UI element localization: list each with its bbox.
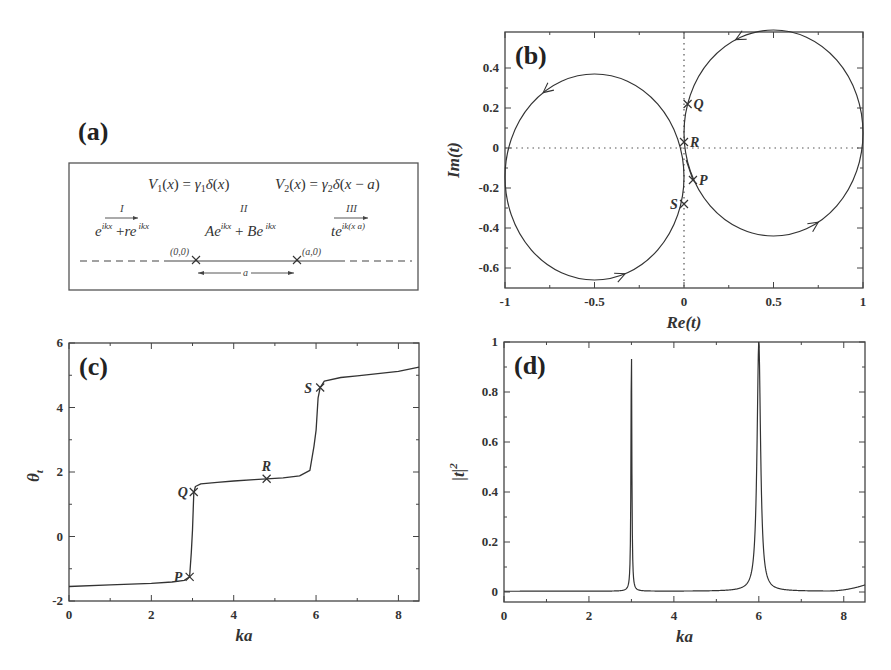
delta-marker-1-icon	[192, 256, 200, 264]
region-II-wavefunction: Aeikx + Be ikx	[204, 221, 276, 239]
point-label-r: R	[689, 135, 699, 150]
y-tick-label: 0	[493, 140, 500, 155]
circle-trajectory	[684, 30, 863, 236]
potential-1-equation: V1(x) = γ1δ(x)	[148, 176, 229, 194]
point-label-q: Q	[694, 97, 704, 112]
y-tick-label: 2	[57, 464, 64, 479]
x-tick-label: 1	[860, 294, 867, 309]
panel-a-schematic: (a) V1(x) = γ1δ(x) V2(x) = γ2δ(x − a) I …	[69, 117, 418, 290]
panel-label: (c)	[79, 352, 108, 381]
arrowhead-icon	[133, 216, 138, 220]
y-tick-label: -0.2	[478, 180, 499, 195]
arrowhead-right-icon	[288, 271, 294, 275]
phase-curve	[69, 367, 419, 586]
x-axis-title: ka	[236, 626, 254, 645]
transmission-curve	[504, 342, 865, 591]
y-axis-title: θt	[24, 469, 45, 482]
point-label-s: S	[670, 197, 678, 212]
point-label-s: S	[304, 381, 312, 396]
plot-frame	[504, 342, 865, 602]
panel-label: (d)	[514, 351, 546, 380]
y-tick-label: 4	[57, 400, 64, 415]
region-II-label: II	[239, 202, 249, 214]
x-tick-label: 2	[148, 607, 155, 622]
y-axis-title: Im(t)	[444, 142, 463, 179]
delta-marker-2-icon	[293, 256, 301, 264]
point-label-q: Q	[178, 485, 188, 500]
panel-b-complex-transmission-plot: -1-0.500.51-0.6-0.4-0.200.20.4Re(t)(b)Im…	[444, 30, 866, 332]
x-axis-title: Re(t)	[666, 313, 702, 332]
x-tick-label: -0.5	[584, 294, 605, 309]
arrowhead-icon	[363, 216, 368, 220]
y-tick-label: 0.8	[482, 384, 499, 399]
y-tick-label: 0.4	[483, 60, 500, 75]
panel-d-transmission-plot: 0246800.20.40.60.81ka(d)|t|2	[447, 334, 865, 646]
y-tick-label: 0.6	[482, 434, 499, 449]
x-tick-label: 2	[586, 608, 593, 623]
y-tick-label: 0	[57, 529, 64, 544]
separation-label: a	[243, 267, 248, 278]
x-tick-label: 4	[230, 607, 237, 622]
circle-trajectory	[505, 74, 684, 280]
y-tick-label: -0.4	[478, 220, 499, 235]
region-I-wavefunction: eikx +re ikx	[95, 221, 149, 239]
y-tick-label: 6	[57, 335, 64, 350]
y-tick-label: -2	[52, 593, 63, 608]
x-tick-label: 0	[66, 607, 73, 622]
point-label-r: R	[261, 459, 271, 474]
x-tick-label: 6	[313, 607, 320, 622]
x-tick-label: -1	[500, 294, 511, 309]
point-label-p: P	[699, 173, 708, 188]
y-tick-label: 1	[492, 334, 499, 349]
x-tick-label: 0	[501, 608, 508, 623]
x-tick-label: 0	[681, 294, 688, 309]
panel-a-label: (a)	[78, 117, 108, 146]
panel-c-phase-plot: 02468-20246ka(c)θtPQRS	[24, 335, 419, 645]
plot-frame	[69, 343, 419, 601]
region-III-label: III	[345, 202, 358, 214]
x-tick-label: 0.5	[765, 294, 782, 309]
x-tick-label: 8	[395, 607, 402, 622]
arrowhead-left-icon	[198, 271, 204, 275]
y-axis-title: |t|2	[447, 463, 468, 481]
panel-label: (b)	[515, 41, 547, 70]
point-marker-q	[684, 100, 692, 108]
y-tick-label: 0.2	[483, 100, 499, 115]
x-tick-label: 4	[671, 608, 678, 623]
region-III-wavefunction: teik(x a)	[331, 221, 365, 239]
origin-point-label: (0,0)	[170, 246, 190, 258]
region-I-label: I	[119, 202, 125, 214]
x-axis-title: ka	[676, 627, 694, 646]
x-tick-label: 6	[756, 608, 763, 623]
figure-canvas: (a) V1(x) = γ1δ(x) V2(x) = γ2δ(x − a) I …	[0, 0, 891, 670]
y-tick-label: 0	[492, 584, 499, 599]
x-tick-label: 8	[841, 608, 848, 623]
point-label-p: P	[174, 570, 183, 585]
a-point-label: (a,0)	[302, 246, 322, 258]
y-tick-label: -0.6	[478, 260, 499, 275]
y-tick-label: 0.2	[482, 534, 498, 549]
y-tick-label: 0.4	[482, 484, 499, 499]
potential-2-equation: V2(x) = γ2δ(x − a)	[275, 176, 380, 194]
